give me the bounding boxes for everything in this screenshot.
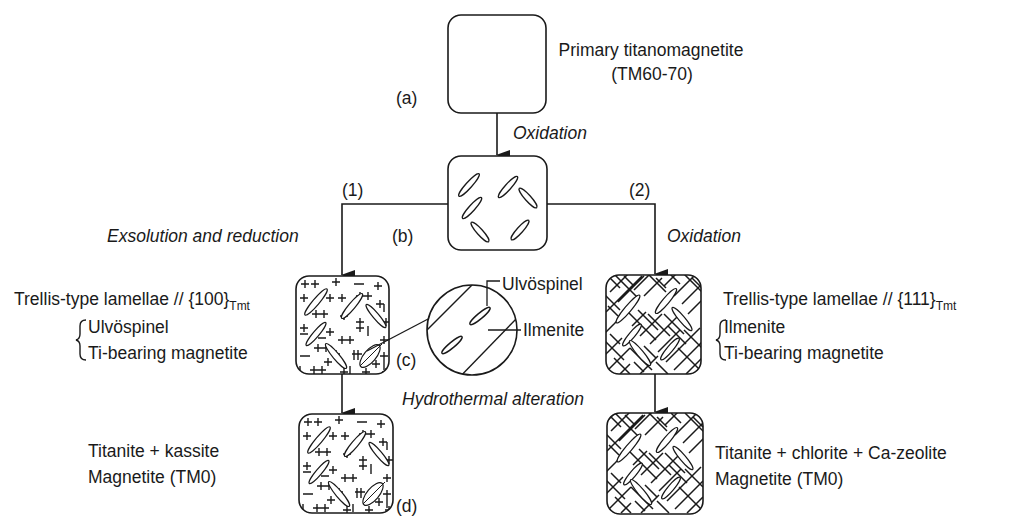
path-2-label: (2) [629, 180, 650, 200]
inset-label-ulvospinel: Ulvöspinel [502, 274, 583, 294]
stage-a-title: Primary titanomagnetite [559, 40, 744, 60]
left-phase-1: Ulvöspinel [88, 317, 169, 337]
right-final-product-2: Magnetite (TM0) [715, 469, 843, 489]
left-final-product-1: Titanite + kassite [88, 441, 219, 461]
path-2-final-box [605, 405, 705, 514]
hydrothermal-label: Hydrothermal alteration [402, 389, 584, 409]
path-1-label: (1) [342, 180, 363, 200]
right-final-product-1: Titanite + chlorite + Ca-zeolite [715, 443, 947, 463]
stage-d-box [299, 414, 393, 514]
alteration-diagram: (a) Primary titanomagnetite (TM60-70) Ox… [0, 0, 1013, 530]
stage-b-box [448, 156, 547, 250]
stage-a-subtitle: (TM60-70) [611, 64, 693, 84]
stage-d-marker: (d) [396, 496, 417, 516]
stage-b-marker: (b) [392, 226, 413, 246]
inset-label-ilmenite: Ilmenite [523, 320, 584, 340]
path-2-stage-box [604, 266, 704, 374]
path-2-process: Oxidation [667, 226, 741, 246]
stage-c-marker: (c) [396, 350, 416, 370]
right-phase-1: Ilmenite [724, 317, 785, 337]
left-final-product-2: Magnetite (TM0) [88, 467, 216, 487]
left-lamellae-title: Trellis-type lamellae // {100}Tmt [14, 289, 251, 313]
stage-c-box [296, 276, 390, 376]
path-1-process: Exsolution and reduction [107, 226, 299, 246]
stage-a-marker: (a) [396, 88, 417, 108]
stage-a-box [448, 15, 546, 113]
branch-path-2 [547, 204, 655, 274]
right-lamellae-title: Trellis-type lamellae // {111}Tmt [723, 289, 957, 313]
process-a-to-b: Oxidation [513, 123, 587, 143]
left-phase-brace [76, 320, 86, 360]
right-phase-2: Ti-bearing magnetite [724, 343, 884, 363]
left-phase-2: Ti-bearing magnetite [88, 343, 248, 363]
